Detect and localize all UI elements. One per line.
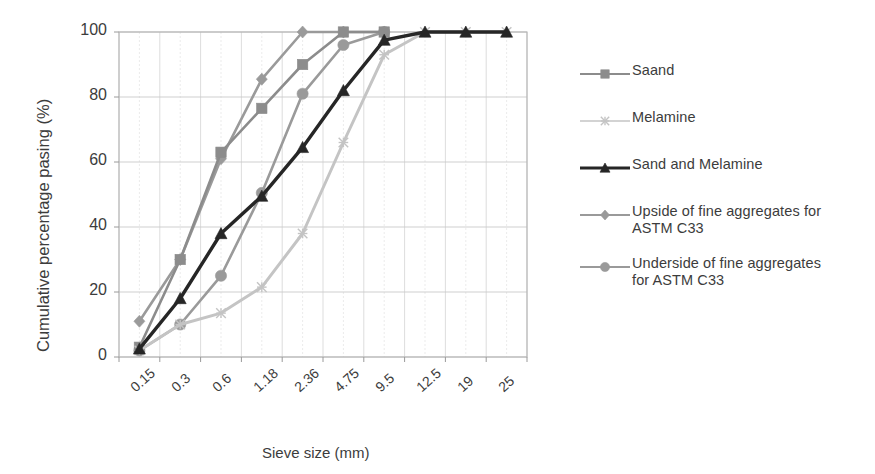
legend-marker-icon [578, 111, 632, 131]
marker-circle [600, 262, 609, 271]
legend-item: Saand [578, 62, 868, 90]
legend-item: Melamine [578, 109, 868, 137]
marker-square [601, 70, 609, 78]
marker-square [257, 103, 267, 113]
y-tick-label: 100 [67, 21, 107, 39]
marker-circle [215, 270, 226, 281]
y-tick-label: 60 [67, 151, 107, 169]
legend-item: Upside of fine aggregates for ASTM C33 [578, 203, 868, 236]
marker-cross [339, 138, 349, 148]
legend-marker-icon [578, 205, 632, 225]
marker-cross [216, 308, 226, 318]
legend-label: Sand and Melamine [632, 156, 763, 173]
legend-marker-icon [578, 257, 632, 277]
legend-item: Sand and Melamine [578, 156, 868, 184]
marker-square [297, 59, 307, 69]
marker-circle [297, 88, 308, 99]
legend-item: Underside of fine aggregates for ASTM C3… [578, 255, 868, 288]
marker-square [216, 147, 226, 157]
legend-key-diamond-icon [578, 205, 632, 225]
legend-label: Melamine [632, 109, 696, 126]
marker-cross [379, 50, 389, 60]
chart-figure: Cumulative percentage pasing (%) Sieve s… [0, 0, 875, 474]
legend-marker-icon [578, 64, 632, 84]
legend-label: Saand [632, 62, 674, 79]
marker-square [175, 254, 185, 264]
marker-cross [298, 229, 308, 239]
grid-lines [119, 32, 527, 357]
legend-key-cross-icon [578, 111, 632, 131]
marker-square [338, 27, 348, 37]
marker-cross [257, 282, 267, 292]
y-tick-label: 0 [67, 346, 107, 364]
marker-cross [601, 117, 609, 125]
legend-label: Upside of fine aggregates for ASTM C33 [632, 203, 821, 236]
marker-circle [338, 39, 349, 50]
legend-key-triangle-icon [578, 158, 632, 178]
y-tick-label: 20 [67, 281, 107, 299]
legend-marker-icon [578, 158, 632, 178]
legend-label: Underside of fine aggregates for ASTM C3… [632, 255, 821, 288]
legend-key-circle-icon [578, 257, 632, 277]
legend-key-square-icon [578, 64, 632, 84]
y-tick-label: 80 [67, 86, 107, 104]
marker-cross [175, 320, 185, 330]
marker-diamond [601, 210, 610, 220]
chart-legend: SaandMelamineSand and MelamineUpside of … [578, 62, 868, 307]
y-tick-label: 40 [67, 216, 107, 234]
